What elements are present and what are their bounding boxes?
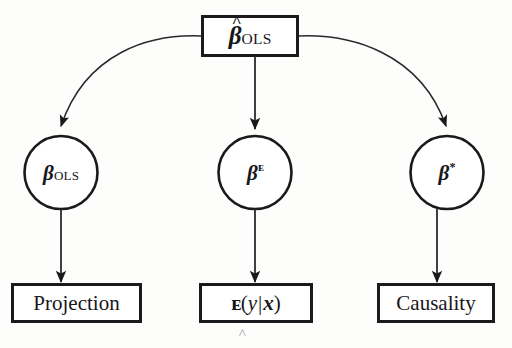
root-box-label: ^βOLS	[202, 16, 298, 56]
circle-left-label: βOLS	[24, 136, 98, 210]
diagram-canvas: ^βOLS βOLS βᴇ β* Projection ᴇ(y|x) Causa…	[0, 0, 512, 348]
regressor-vector: x	[263, 291, 274, 316]
ols-subscript: OLS	[242, 30, 272, 48]
star-superscript: *	[450, 160, 456, 175]
beta-symbol: β	[247, 161, 258, 186]
beta-hat-accent: ^	[232, 13, 242, 30]
box-expectation-label: ᴇ(y|x)	[200, 284, 312, 322]
edge-root-to-left-circle	[61, 36, 201, 126]
circle-right-label: β*	[410, 136, 484, 210]
edge-root-to-right-circle	[299, 36, 446, 126]
beta-symbol: β	[439, 161, 450, 186]
beta-symbol: β	[43, 161, 54, 186]
expectation-superscript: ᴇ	[258, 160, 263, 175]
scan-artifact-caret: ^	[238, 326, 247, 343]
open-paren: (	[241, 291, 248, 316]
box-projection-label: Projection	[12, 284, 141, 322]
circle-middle-label: βᴇ	[218, 136, 292, 210]
expectation-operator: ᴇ	[231, 291, 241, 316]
close-paren: )	[274, 291, 281, 316]
dependent-variable: y	[248, 291, 257, 316]
box-causality-label: Causality	[378, 284, 494, 322]
ols-subscript: OLS	[54, 168, 79, 184]
